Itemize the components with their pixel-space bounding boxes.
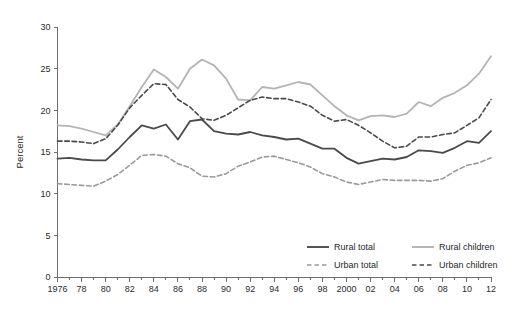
y-tick-label: 15 bbox=[40, 147, 50, 157]
x-tick-label: 2000 bbox=[336, 284, 356, 294]
y-tick-label: 20 bbox=[40, 106, 50, 116]
legend-label-rural-children: Rural children bbox=[439, 242, 495, 252]
x-tick-label: 94 bbox=[269, 284, 279, 294]
x-tick-label: 92 bbox=[245, 284, 255, 294]
legend-label-rural-total: Rural total bbox=[334, 242, 375, 252]
x-tick-label: 78 bbox=[77, 284, 87, 294]
x-tick-label: 12 bbox=[486, 284, 496, 294]
x-tick-label: 84 bbox=[149, 284, 159, 294]
x-tick-label: 10 bbox=[462, 284, 472, 294]
x-tick-label: 02 bbox=[366, 284, 376, 294]
y-tick-label: 0 bbox=[45, 272, 50, 282]
y-tick-label: 5 bbox=[45, 231, 50, 241]
legend-label-urban-children: Urban children bbox=[439, 260, 498, 270]
x-tick-label: 82 bbox=[125, 284, 135, 294]
legend-label-urban-total: Urban total bbox=[334, 260, 378, 270]
x-tick-label: 1976 bbox=[47, 284, 67, 294]
series-line-urban-total bbox=[58, 155, 492, 187]
chart-canvas: 0510152025301976788082848688909294969820… bbox=[0, 0, 520, 315]
y-axis-title: Percent bbox=[14, 135, 25, 168]
poverty-rate-line-chart: 0510152025301976788082848688909294969820… bbox=[0, 0, 520, 315]
x-tick-label: 08 bbox=[438, 284, 448, 294]
x-tick-label: 04 bbox=[390, 284, 400, 294]
y-tick-label: 30 bbox=[40, 22, 50, 32]
series-line-rural-total bbox=[58, 120, 492, 164]
x-tick-label: 06 bbox=[414, 284, 424, 294]
x-tick-label: 86 bbox=[173, 284, 183, 294]
y-tick-label: 25 bbox=[40, 64, 50, 74]
x-tick-label: 96 bbox=[293, 284, 303, 294]
x-tick-label: 88 bbox=[197, 284, 207, 294]
x-tick-label: 98 bbox=[317, 284, 327, 294]
series-line-rural-children bbox=[58, 56, 492, 135]
x-tick-label: 80 bbox=[101, 284, 111, 294]
x-tick-label: 90 bbox=[221, 284, 231, 294]
y-tick-label: 10 bbox=[40, 189, 50, 199]
